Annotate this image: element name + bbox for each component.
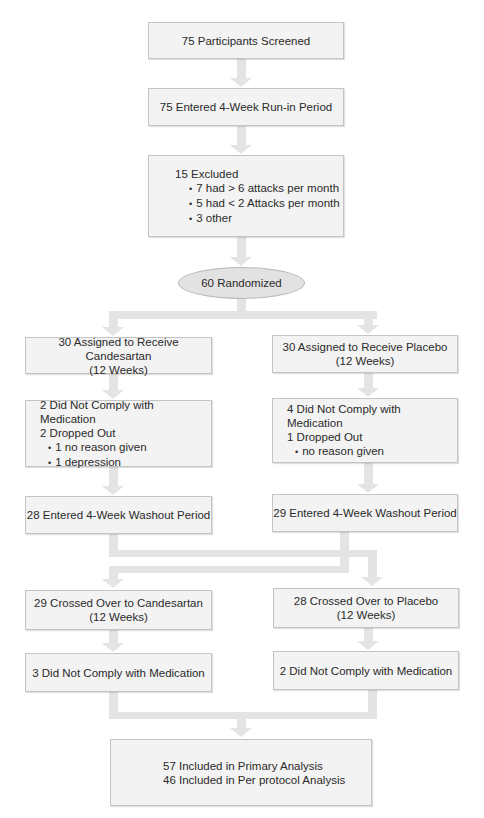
merge-connector <box>109 712 377 719</box>
connector <box>364 372 373 389</box>
connector <box>237 125 246 147</box>
analysis-box: 57 Included in Primary Analysis 46 Inclu… <box>110 739 372 806</box>
placebo-washout-box: 29 Entered 4-Week Washout Period <box>272 494 458 532</box>
arrow-down-icon <box>357 388 379 397</box>
placebo-assigned-label: 30 Assigned to Receive Placebo <box>283 340 448 354</box>
excluded-reason: 7 had > 6 attacks per month <box>175 181 343 196</box>
placebo-washout-label: 29 Entered 4-Week Washout Period <box>273 506 456 520</box>
dropout-reason: 1 no reason given <box>40 440 211 455</box>
crossover-duration: (12 Weeks) <box>337 608 396 622</box>
placebo-assigned-box: 30 Assigned to Receive Placebo (12 Weeks… <box>272 335 458 373</box>
arrow-down-icon <box>357 641 379 650</box>
crossover-to-candesartan-box: 29 Crossed Over to Candesartan (12 Weeks… <box>25 590 212 630</box>
candesartan-washout-box: 28 Entered 4-Week Washout Period <box>25 496 212 534</box>
dropout-reason: 1 depression <box>40 455 211 470</box>
arrow-down-icon <box>357 325 379 334</box>
crossover-connector <box>109 550 377 557</box>
arrow-down-icon <box>230 728 252 737</box>
attrition-line: 2 Did Not Comply with Medication <box>40 398 211 426</box>
arrow-down-icon <box>357 484 379 493</box>
crossover-candesartan-attrition-box: 3 Did Not Comply with Medication <box>25 653 212 692</box>
randomized-ellipse: 60 Randomized <box>178 267 305 299</box>
connector <box>109 311 118 328</box>
randomized-label: 60 Randomized <box>201 277 282 289</box>
excluded-title: 15 Excluded <box>175 167 343 181</box>
crossover-attrition-label: 2 Did Not Comply with Medication <box>280 664 453 678</box>
attrition-line: 2 Dropped Out <box>40 426 211 440</box>
excluded-reason: 3 other <box>175 211 343 226</box>
candesartan-assigned-label: 30 Assigned to Receive Candesartan <box>26 335 211 363</box>
connector <box>364 627 373 642</box>
excluded-reason: 5 had < 2 Attacks per month <box>175 196 343 211</box>
crossover-connector <box>109 566 349 573</box>
arrow-down-icon <box>102 579 124 588</box>
run-in-box: 75 Entered 4-Week Run-in Period <box>148 88 344 126</box>
candesartan-assigned-box: 30 Assigned to Receive Candesartan (12 W… <box>25 337 212 374</box>
arrow-down-icon <box>102 486 124 495</box>
candesartan-attrition-box: 2 Did Not Comply with Medication 2 Dropp… <box>25 400 212 467</box>
dropout-reason: no reason given <box>287 444 457 459</box>
arrow-down-icon <box>230 257 252 266</box>
excluded-box: 15 Excluded 7 had > 6 attacks per month … <box>148 155 344 237</box>
connector <box>109 629 118 644</box>
crossover-label: 28 Crossed Over to Placebo <box>294 594 438 608</box>
attrition-line: 1 Dropped Out <box>287 430 457 444</box>
connector <box>237 58 246 80</box>
placebo-attrition-box: 4 Did Not Comply with Medication 1 Dropp… <box>272 398 458 463</box>
connector <box>364 462 373 485</box>
candesartan-washout-label: 28 Entered 4-Week Washout Period <box>27 508 210 522</box>
crossover-attrition-label: 3 Did Not Comply with Medication <box>32 666 205 680</box>
crossover-connector <box>109 566 118 580</box>
screened-box: 75 Participants Screened <box>148 22 344 59</box>
crossover-placebo-attrition-box: 2 Did Not Comply with Medication <box>273 651 459 690</box>
run-in-label: 75 Entered 4-Week Run-in Period <box>160 100 332 114</box>
placebo-assigned-duration: (12 Weeks) <box>336 354 395 368</box>
screened-label: 75 Participants Screened <box>182 34 311 48</box>
connector <box>237 236 246 259</box>
crossover-to-placebo-box: 28 Crossed Over to Placebo (12 Weeks) <box>273 588 459 628</box>
crossover-duration: (12 Weeks) <box>89 610 148 624</box>
arrow-down-icon <box>230 145 252 154</box>
split-connector <box>109 311 377 319</box>
crossover-label: 29 Crossed Over to Candesartan <box>34 596 203 610</box>
candesartan-assigned-duration: (12 Weeks) <box>89 363 148 377</box>
arrow-down-icon <box>230 78 252 87</box>
primary-analysis-label: 57 Included in Primary Analysis <box>163 759 371 773</box>
attrition-line: 4 Did Not Comply with Medication <box>287 402 457 430</box>
arrow-down-icon <box>361 577 383 586</box>
arrow-down-icon <box>102 643 124 652</box>
per-protocol-analysis-label: 46 Included in Per protocol Analysis <box>163 773 371 787</box>
crossover-connector <box>368 550 377 578</box>
